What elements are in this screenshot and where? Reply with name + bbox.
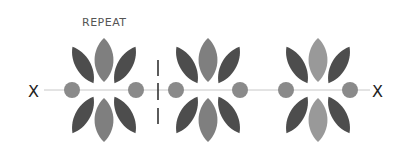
petal-top [95, 38, 114, 82]
petal-bottom [95, 98, 114, 142]
petal-bottom-right [322, 93, 356, 137]
petal-bottom-right [108, 93, 142, 137]
petal-bottom-left [66, 93, 100, 137]
dot-right [342, 82, 358, 98]
petal-bottom-left [280, 93, 314, 137]
diagram-title: REPEAT [82, 16, 127, 29]
petal-top [199, 38, 218, 82]
dot-left [64, 82, 80, 98]
petal-top-left [66, 43, 100, 87]
petal-top-left [170, 43, 204, 87]
petal-top-right [212, 43, 246, 87]
petal-top-left [280, 43, 314, 87]
dot-left [168, 82, 184, 98]
petal-top [309, 38, 328, 82]
dot-right [128, 82, 144, 98]
dot-left [278, 82, 294, 98]
petal-bottom [199, 98, 218, 142]
axis-label-right: X [372, 82, 383, 101]
petal-bottom [309, 98, 328, 142]
petal-top-right [322, 43, 356, 87]
petal-bottom-left [170, 93, 204, 137]
dot-right [232, 82, 248, 98]
petal-top-right [108, 43, 142, 87]
petal-bottom-right [212, 93, 246, 137]
axis-label-left: X [28, 82, 39, 101]
repeat-diagram: REPEAT X X [0, 0, 406, 157]
